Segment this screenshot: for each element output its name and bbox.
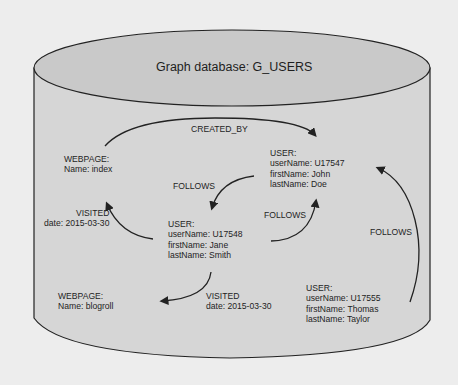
node-type: USER:: [270, 148, 345, 158]
edge-label-created-by: CREATED_BY: [191, 124, 248, 134]
edge-date: date: 2015-03-30: [42, 218, 109, 228]
diagram-title: Graph database: G_USERS: [156, 60, 312, 74]
edge-label-visited-index: VISITED date: 2015-03-30: [42, 208, 109, 229]
node-type: USER:: [306, 283, 381, 293]
node-firstname: firstName: Thomas: [306, 304, 381, 314]
node-user-jane: USER: userName: U17548 firstName: Jane l…: [168, 219, 243, 261]
edge-label-follows: FOLLOWS: [370, 227, 412, 237]
node-name: Name: index: [64, 164, 112, 174]
node-type: WEBPAGE:: [64, 154, 112, 164]
node-name: Name: blogroll: [58, 301, 113, 311]
edge-label-follows: FOLLOWS: [264, 210, 306, 220]
node-user-thomas: USER: userName: U17555 firstName: Thomas…: [306, 283, 381, 325]
node-firstname: firstName: Jane: [168, 240, 243, 250]
edge-date: date: 2015-03-30: [206, 301, 271, 311]
node-username: userName: U17548: [168, 229, 243, 239]
node-username: userName: U17547: [270, 158, 345, 168]
node-type: WEBPAGE:: [58, 291, 113, 301]
node-type: USER:: [168, 219, 243, 229]
node-lastname: lastName: Smith: [168, 250, 243, 260]
node-firstname: firstName: John: [270, 169, 345, 179]
edge-label: VISITED: [42, 208, 109, 218]
node-webpage-blogroll: WEBPAGE: Name: blogroll: [58, 291, 113, 312]
node-lastname: lastName: Doe: [270, 179, 345, 189]
node-webpage-index: WEBPAGE: Name: index: [64, 154, 112, 175]
edge-label-follows: FOLLOWS: [173, 181, 215, 191]
edge-label: VISITED: [206, 291, 271, 301]
node-lastname: lastName: Taylor: [306, 314, 381, 324]
edge-label-visited-blogroll: VISITED date: 2015-03-30: [206, 291, 271, 312]
node-username: userName: U17555: [306, 293, 381, 303]
node-user-john: USER: userName: U17547 firstName: John l…: [270, 148, 345, 190]
diagram-canvas: [0, 0, 458, 385]
